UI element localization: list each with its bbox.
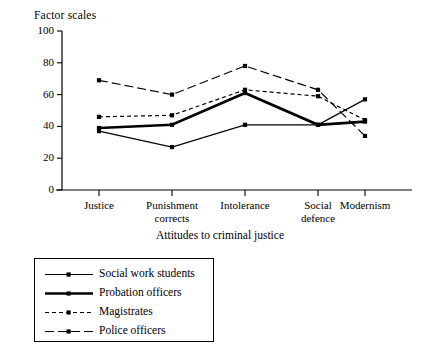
chart-legend: Social work studentsProbation officersMa… — [34, 258, 214, 342]
series-marker-0-4 — [363, 97, 367, 101]
series-marker-2-2 — [243, 88, 247, 92]
series-marker-3-3 — [316, 88, 320, 92]
y-axis-tick-label: 100 — [28, 24, 54, 36]
legend-item-2: Magistrates — [35, 303, 215, 322]
y-axis-tick-label: 40 — [28, 119, 54, 131]
series-line-1 — [99, 93, 365, 128]
legend-marker-3 — [67, 329, 71, 333]
legend-label-1: Probation officers — [99, 286, 182, 298]
legend-swatch-0 — [43, 265, 95, 284]
series-marker-3-1 — [170, 93, 174, 97]
chart-figure: Factor scales 020406080100 JusticePunish… — [0, 0, 440, 355]
legend-marker-1 — [67, 291, 71, 295]
y-axis-tick-label: 80 — [28, 56, 54, 68]
series-marker-1-1 — [170, 123, 174, 127]
legend-item-3: Police officers — [35, 322, 215, 341]
series-marker-3-0 — [97, 78, 101, 82]
legend-label-2: Magistrates — [99, 305, 153, 317]
series-marker-1-0 — [97, 126, 101, 130]
legend-swatch-3 — [43, 322, 95, 341]
legend-item-0: Social work students — [35, 265, 215, 284]
legend-item-1: Probation officers — [35, 284, 215, 303]
series-marker-0-1 — [170, 145, 174, 149]
series-marker-2-4 — [363, 118, 367, 122]
series-marker-2-3 — [316, 94, 320, 98]
series-marker-0-2 — [243, 123, 247, 127]
legend-swatch-1 — [43, 284, 95, 303]
series-marker-2-0 — [97, 115, 101, 119]
legend-label-3: Police officers — [99, 324, 166, 336]
legend-marker-0 — [67, 272, 71, 276]
series-marker-2-1 — [170, 113, 174, 117]
series-marker-3-4 — [363, 134, 367, 138]
series-line-2 — [99, 90, 365, 120]
y-axis-tick-label: 20 — [28, 151, 54, 163]
legend-swatch-2 — [43, 303, 95, 322]
series-marker-1-3 — [316, 123, 320, 127]
x-axis-tick-label-4: Modernism — [322, 199, 408, 212]
y-axis-tick-label: 0 — [28, 183, 54, 195]
legend-label-0: Social work students — [99, 267, 195, 279]
legend-marker-2 — [67, 310, 71, 314]
x-axis-title: Attitudes to criminal justice — [0, 229, 440, 241]
y-axis-tick-label: 60 — [28, 88, 54, 100]
series-marker-3-2 — [243, 64, 247, 68]
